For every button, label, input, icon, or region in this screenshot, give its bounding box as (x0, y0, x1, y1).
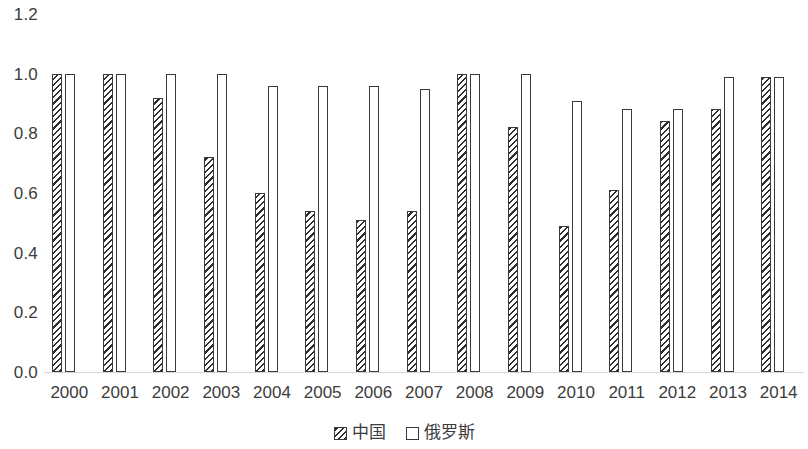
legend-swatch-icon (406, 427, 419, 440)
bar-russia-2014 (774, 77, 784, 372)
legend-item-china: 中国 (334, 424, 386, 442)
bar-russia-2003 (217, 74, 227, 372)
bar-china-2003 (204, 157, 214, 372)
bar-group (95, 14, 146, 372)
y-tick-label: 1.0 (14, 65, 38, 82)
bar-russia-2004 (268, 86, 278, 372)
x-tick-label: 2000 (50, 384, 88, 402)
x-tick-label: 2011 (608, 384, 645, 402)
bar-group (551, 14, 602, 372)
bar-group (196, 14, 247, 372)
bar-china-2010 (559, 226, 569, 372)
bar-china-2006 (356, 220, 366, 372)
bar-russia-2010 (572, 101, 582, 372)
x-tick-label: 2004 (253, 384, 291, 402)
legend-label: 俄罗斯 (424, 424, 475, 442)
bar-china-2011 (609, 190, 619, 372)
x-axis-baseline (44, 372, 804, 373)
y-tick-label: 0.8 (14, 125, 38, 142)
bar-group (703, 14, 754, 372)
x-tick-label: 2005 (304, 384, 342, 402)
chart-legend: 中国俄罗斯 (0, 424, 808, 442)
x-tick-label: 2010 (557, 384, 595, 402)
y-axis: 1.21.00.80.60.40.20.0 (0, 0, 44, 380)
x-tick-label: 2014 (760, 384, 798, 402)
bar-group (348, 14, 399, 372)
bar-russia-2013 (724, 77, 734, 372)
bar-russia-2008 (470, 74, 480, 372)
x-tick-label: 2012 (658, 384, 696, 402)
x-tick-label: 2009 (506, 384, 544, 402)
y-tick-label: 0.0 (14, 364, 38, 381)
bar-group (145, 14, 196, 372)
legend-label: 中国 (352, 424, 386, 442)
bar-china-2002 (153, 98, 163, 372)
bar-china-2012 (660, 121, 670, 372)
bar-chart: 1.21.00.80.60.40.20.0 200020012002200320… (0, 0, 808, 449)
x-tick-label: 2006 (354, 384, 392, 402)
bar-group (500, 14, 551, 372)
bar-group (601, 14, 652, 372)
bar-russia-2007 (420, 89, 430, 372)
bar-group (449, 14, 500, 372)
legend-item-russia: 俄罗斯 (406, 424, 475, 442)
bar-china-2014 (761, 77, 771, 372)
bar-group (297, 14, 348, 372)
x-tick-label: 2001 (101, 384, 139, 402)
bar-china-2001 (103, 74, 113, 372)
bar-russia-2006 (369, 86, 379, 372)
x-tick-label: 2003 (202, 384, 240, 402)
bar-russia-2012 (673, 109, 683, 372)
bar-china-2008 (457, 74, 467, 372)
x-axis: 2000200120022003200420052006200720082009… (44, 376, 804, 404)
x-tick-label: 2002 (152, 384, 190, 402)
bar-russia-2001 (116, 74, 126, 372)
y-tick-label: 1.2 (14, 6, 38, 23)
y-tick-label: 0.2 (14, 304, 38, 321)
bar-china-2005 (305, 211, 315, 372)
y-tick-label: 0.6 (14, 185, 38, 202)
bar-group (399, 14, 450, 372)
legend-swatch-icon (334, 427, 347, 440)
bar-russia-2002 (166, 74, 176, 372)
bar-china-2009 (508, 127, 518, 372)
bar-china-2013 (711, 109, 721, 372)
x-tick-label: 2013 (709, 384, 747, 402)
x-tick-label: 2007 (405, 384, 443, 402)
bar-russia-2005 (318, 86, 328, 372)
bar-china-2007 (407, 211, 417, 372)
bar-group (44, 14, 95, 372)
bar-group (247, 14, 298, 372)
bar-russia-2011 (622, 109, 632, 372)
bar-group (652, 14, 703, 372)
x-tick-label: 2008 (456, 384, 494, 402)
bar-russia-2000 (65, 74, 75, 372)
plot-area (44, 14, 804, 372)
y-tick-label: 0.4 (14, 244, 38, 261)
bar-group (753, 14, 804, 372)
bar-china-2000 (52, 74, 62, 372)
bar-china-2004 (255, 193, 265, 372)
bar-russia-2009 (521, 74, 531, 372)
